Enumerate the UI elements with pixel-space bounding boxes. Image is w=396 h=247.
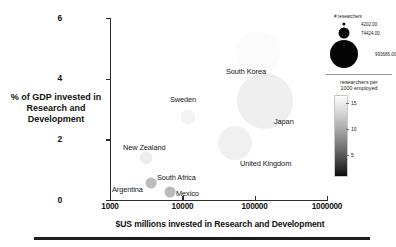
point-label-south-africa: South Africa <box>157 174 196 182</box>
size-legend-bubble-medium <box>339 28 350 39</box>
x-tick-label-10000: 10000 <box>160 202 205 211</box>
y-tick-label-6: 6 <box>57 14 62 22</box>
bubble-argentina <box>146 178 157 189</box>
y-axis-line <box>110 18 111 200</box>
colorbar-tick-label-5: 5 <box>351 152 354 158</box>
y-axis-title: % of GDP invested in Research and Develo… <box>6 92 106 125</box>
colorbar-tick-10 <box>346 129 349 130</box>
bubble-mexico <box>165 187 176 198</box>
y-tick-label-2: 2 <box>57 135 62 143</box>
y-tick-label-4: 4 <box>57 74 62 82</box>
x-tick-mark-100000 <box>255 196 256 201</box>
y-tick-mark-2 <box>106 139 111 140</box>
point-label-argentina: Argentina <box>112 186 143 194</box>
size-legend-bubble-large <box>330 40 358 68</box>
y-tick-label-0: 0 <box>57 196 62 204</box>
x-tick-label-1000: 1000 <box>90 202 130 211</box>
colorbar-tick-label-15: 15 <box>351 100 357 106</box>
x-tick-label-100000: 100000 <box>230 202 279 211</box>
colorbar-tick-label-10: 10 <box>351 126 357 132</box>
point-label-south-korea: South Korea <box>226 68 266 76</box>
point-label-new-zealand: New Zealand <box>123 144 165 152</box>
size-legend-value-large: 993686.00 <box>375 52 396 57</box>
size-legend-value-medium: 74424.00 <box>361 31 380 36</box>
colorbar-tick-5 <box>346 155 349 156</box>
bottom-rule <box>34 237 370 240</box>
bubble-united-kingdom <box>218 126 252 160</box>
colorbar-title: researchers per 1000 employed <box>322 79 396 92</box>
y-tick-mark-4 <box>106 79 111 80</box>
y-tick-mark-6 <box>106 18 111 19</box>
point-label-united-kingdom: United Kingdom <box>240 160 291 168</box>
point-label-japan: Japan <box>274 118 294 126</box>
point-label-mexico: Mexico <box>176 190 199 198</box>
size-legend-value-small: 4202.00 <box>361 22 377 27</box>
x-tick-label-1000000: 1000000 <box>300 202 354 211</box>
size-legend-title: # researchers <box>334 14 362 19</box>
point-label-sweden: Sweden <box>170 96 196 104</box>
colorbar-tick-15 <box>346 103 349 104</box>
legend-divider <box>326 74 392 75</box>
x-axis-title: $US millions invested in Research and De… <box>90 219 350 229</box>
bubble-chart-figure: 6 4 2 0 1000 10000 100000 1000000 % of G… <box>0 0 396 247</box>
x-tick-mark-1000 <box>110 196 111 201</box>
colorbar-title-line1: researchers per <box>340 79 378 85</box>
bubble-sweden <box>181 110 196 125</box>
colorbar-gradient <box>334 95 348 177</box>
x-axis-line <box>110 200 327 201</box>
size-legend-bubble-small <box>342 22 345 25</box>
colorbar-title-line2: 1000 employed <box>341 85 378 91</box>
bubble-new-zealand <box>140 152 153 165</box>
x-tick-mark-1000000 <box>327 196 328 201</box>
size-legend: # researchers 4202.00 74424.00 993686.00 <box>318 14 396 70</box>
